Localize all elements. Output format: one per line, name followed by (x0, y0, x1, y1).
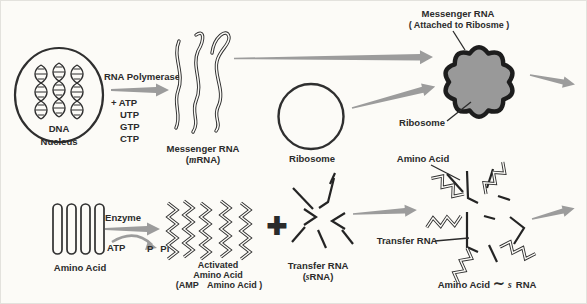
mrna-abbr: (mRNA) (186, 154, 220, 165)
amino-acid-capsules (53, 204, 104, 254)
ribosome-caption: Ribosome (289, 153, 335, 164)
atp-label: ATP (107, 242, 126, 253)
plus-sign: + (267, 206, 287, 244)
trna-abbr: (sRNA) (303, 271, 334, 282)
ntp-utp: UTP (120, 109, 140, 120)
final-output-arrow-icon (531, 203, 577, 225)
ribosome-shape (279, 84, 344, 149)
complex-amino-acid-label: Amino Acid (397, 153, 450, 164)
combination-arrow-icon (353, 204, 418, 220)
aa-srna-caption: Amino Acid∼sRNA (438, 275, 537, 291)
dna-helix-icon (35, 65, 47, 119)
enzyme-label: Enzyme (105, 212, 141, 223)
mrna-strands (176, 33, 229, 132)
complex-leader-line (453, 31, 465, 50)
complex-label-line1: Messenger RNA (422, 8, 495, 19)
trna-shapes (292, 173, 353, 248)
complex-trna-label: Transfer RNA (377, 235, 438, 246)
dna-helix-icon (53, 63, 65, 117)
rna-polymerase-label: RNA Polymerase (104, 71, 180, 82)
complex-ribosome-label: Ribosome (399, 117, 445, 128)
activation-arrow-icon (105, 223, 160, 236)
nucleus-caption: Nucleus (41, 136, 78, 147)
mrna-ribosome-complex-shape (446, 47, 513, 117)
activated-line1: Activated (198, 260, 239, 270)
ntp-gtp: GTP (120, 121, 140, 132)
mrna-to-complex-arrow-icon (234, 50, 433, 65)
diagram-canvas: DNA Nucleus RNA Polymerase + ATP UTP GTP… (1, 1, 586, 303)
dna-label: DNA (49, 123, 70, 134)
activated-amino-acid-zigzags (168, 201, 250, 259)
aa-trna-complex-shapes (426, 162, 535, 283)
complex-output-arrow-icon (529, 69, 576, 90)
ntp-atp: + ATP (111, 97, 138, 108)
amino-acid-caption: Amino Acid (54, 262, 107, 273)
activated-line3: (AMPAmino Acid ) (176, 280, 263, 290)
trna-leader-line (435, 238, 469, 241)
transcription-arrow-icon (111, 84, 169, 97)
protein-synthesis-diagram: DNA Nucleus RNA Polymerase + ATP UTP GTP… (0, 0, 587, 304)
ribosome-to-complex-arrow-icon (350, 80, 437, 114)
complex-label-line2: ( Attached to Ribosme ) (409, 20, 510, 30)
trna-title: Transfer RNA (288, 260, 349, 271)
ntp-ctp: CTP (120, 133, 140, 144)
mrna-title: Messenger RNA (167, 143, 240, 154)
activated-line2: Amino Acid (193, 270, 243, 280)
ntp-list: + ATP UTP GTP CTP (111, 97, 140, 144)
dna-helix-icon (71, 65, 83, 119)
